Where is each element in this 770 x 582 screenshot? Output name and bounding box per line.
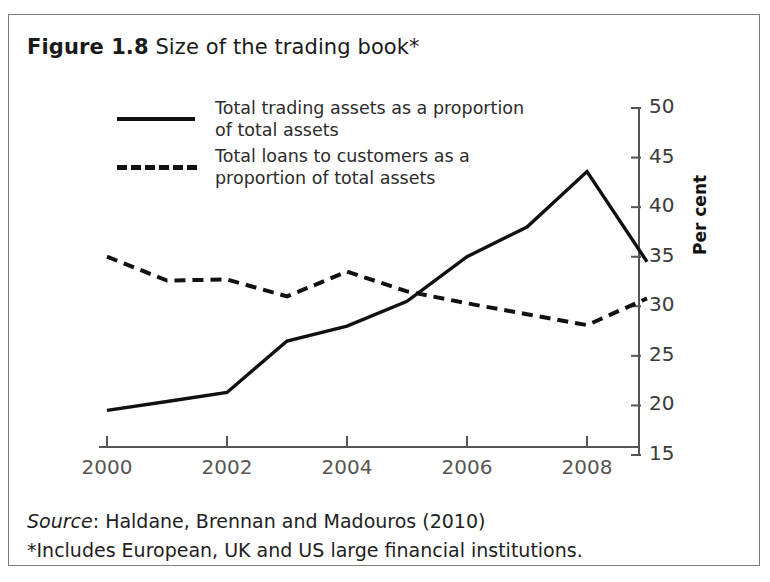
y-axis-tick-label: 15 [649, 441, 689, 465]
x-axis-tick-label: 2004 [312, 455, 382, 479]
y-axis-tick-label: 30 [649, 292, 689, 316]
x-axis-tick-label: 2002 [192, 455, 262, 479]
x-axis-tick-label: 2008 [552, 455, 622, 479]
legend-item-total-loans-to-customers: Total loans to customers as a proportion… [117, 145, 537, 193]
source-text: : Haldane, Brennan and Madouros (2010) [93, 510, 486, 532]
legend-swatch-solid-line-icon [117, 117, 195, 121]
legend-item-total-trading-assets: Total trading assets as a proportion of … [117, 97, 537, 145]
legend-label-total-trading-assets: Total trading assets as a proportion of … [215, 97, 524, 141]
legend-label-total-loans-to-customers: Total loans to customers as a proportion… [215, 145, 470, 189]
legend-swatch-dashed-line-icon [117, 165, 197, 170]
x-axis-ticks [107, 436, 587, 447]
series-line-total-trading-assets [107, 172, 647, 411]
source-label: Source [27, 510, 93, 532]
x-axis-tick-label: 2006 [432, 455, 502, 479]
figure-frame: Figure 1.8 Size of the trading book* 504… [8, 14, 760, 566]
y-axis-title: Per cent [690, 175, 710, 255]
y-axis-tick-label: 50 [649, 94, 689, 118]
y-axis-tick-label: 20 [649, 391, 689, 415]
y-axis-tick-label: 45 [649, 144, 689, 168]
y-axis-tick-label: 40 [649, 193, 689, 217]
chart-legend: Total trading assets as a proportion of … [117, 97, 537, 193]
figure-footer: Source: Haldane, Brennan and Madouros (2… [27, 507, 583, 565]
series-group [107, 172, 647, 411]
y-axis-tick-label: 35 [649, 243, 689, 267]
x-axis-tick-label: 2000 [72, 455, 142, 479]
source-line: Source: Haldane, Brennan and Madouros (2… [27, 507, 583, 536]
y-axis-tick-label: 25 [649, 342, 689, 366]
footnote-line: *Includes European, UK and US large fina… [27, 536, 583, 565]
